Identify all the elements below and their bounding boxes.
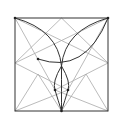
arcs xyxy=(15,18,108,111)
point-top-right xyxy=(107,17,110,20)
geometric-diagram xyxy=(0,0,119,119)
point-left-center xyxy=(37,58,40,61)
point-top-left xyxy=(14,17,17,20)
point-bottom-center xyxy=(60,110,63,113)
point-lower-left xyxy=(54,89,57,92)
point-lower-right xyxy=(67,89,70,92)
